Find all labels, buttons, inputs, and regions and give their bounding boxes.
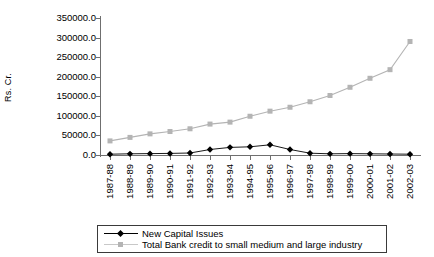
x-axis-tick-mark: [210, 156, 211, 160]
x-axis-tick-label: 1987-88: [105, 164, 115, 199]
x-axis-tick-label: 2001-02: [385, 164, 395, 199]
x-axis-tick-mark: [330, 156, 331, 160]
x-axis-tick-label: 1998-99: [325, 164, 335, 199]
x-axis-tick-label: 1988-89: [125, 164, 135, 199]
y-axis-tick-label: 0.0: [83, 150, 96, 160]
chart-figure: Rs. Cr. 0.050000.0100000.0150000.0200000…: [0, 0, 434, 257]
y-axis-line: [100, 16, 101, 157]
x-axis-tick-label: 2000-01: [365, 164, 375, 199]
x-axis-tick-label: 1990-91: [165, 164, 175, 199]
y-axis-tick-label: 150000.0: [56, 91, 96, 101]
x-axis-tick-label: 1989-90: [145, 164, 155, 199]
x-axis-tick-mark: [290, 156, 291, 160]
legend-item-total-bank-credit: Total Bank credit to small medium and la…: [104, 239, 362, 251]
x-axis-tick-mark: [170, 156, 171, 160]
y-axis-tick-mark: [96, 116, 100, 117]
x-axis-tick-mark: [350, 156, 351, 160]
y-axis-tick-mark: [96, 77, 100, 78]
x-axis-tick-label: 1997-98: [305, 164, 315, 199]
x-axis-tick-mark: [130, 156, 131, 160]
y-axis-tick-mark: [96, 155, 100, 156]
x-axis-tick-mark: [310, 156, 311, 160]
x-axis-tick-label: 1993-94: [225, 164, 235, 199]
y-axis-tick-label: 200000.0: [56, 72, 96, 82]
x-axis-tick-mark: [390, 156, 391, 160]
y-axis-tick-label: 300000.0: [56, 33, 96, 43]
y-axis-tick-labels: 0.050000.0100000.0150000.0200000.0250000…: [14, 0, 96, 257]
x-axis-tick-mark: [230, 156, 231, 160]
x-axis-tick-label: 1992-93: [205, 164, 215, 199]
x-axis-tick-mark: [370, 156, 371, 160]
y-axis-tick-mark: [96, 38, 100, 39]
y-axis-tick-label: 350000.0: [56, 13, 96, 23]
y-axis-tick-mark: [96, 96, 100, 97]
x-axis-tick-label: 1995-96: [265, 164, 275, 199]
y-axis-tick-label: 250000.0: [56, 52, 96, 62]
x-axis-tick-mark: [110, 156, 111, 160]
x-axis-tick-mark: [250, 156, 251, 160]
x-axis-tick-mark: [150, 156, 151, 160]
x-axis-tick-label: 1999-00: [345, 164, 355, 199]
series-total-bank-credit-to-small-medium-and-large-industry: [108, 39, 413, 143]
legend-label: New Capital Issues: [142, 229, 223, 239]
x-axis-tick-mark: [190, 156, 191, 160]
x-axis-tick-mark: [270, 156, 271, 160]
x-axis-tick-label: 1994-95: [245, 164, 255, 199]
x-axis-tick-label: 2002-03: [405, 164, 415, 199]
x-axis-tick-label: 1991-92: [185, 164, 195, 199]
legend-key-line-diamond: [104, 229, 138, 239]
y-axis-tick-label: 50000.0: [62, 130, 96, 140]
y-axis-tick-label: 100000.0: [56, 111, 96, 121]
chart-legend: New Capital Issues Total Bank credit to …: [97, 225, 387, 253]
x-axis-line: [100, 155, 421, 156]
legend-label: Total Bank credit to small medium and la…: [142, 240, 362, 250]
y-axis-tick-mark: [96, 57, 100, 58]
x-axis-tick-label: 1996-97: [285, 164, 295, 199]
y-axis-tick-mark: [96, 135, 100, 136]
y-axis-tick-mark: [96, 18, 100, 19]
legend-key-line-square: [104, 240, 138, 250]
x-axis-tick-mark: [410, 156, 411, 160]
